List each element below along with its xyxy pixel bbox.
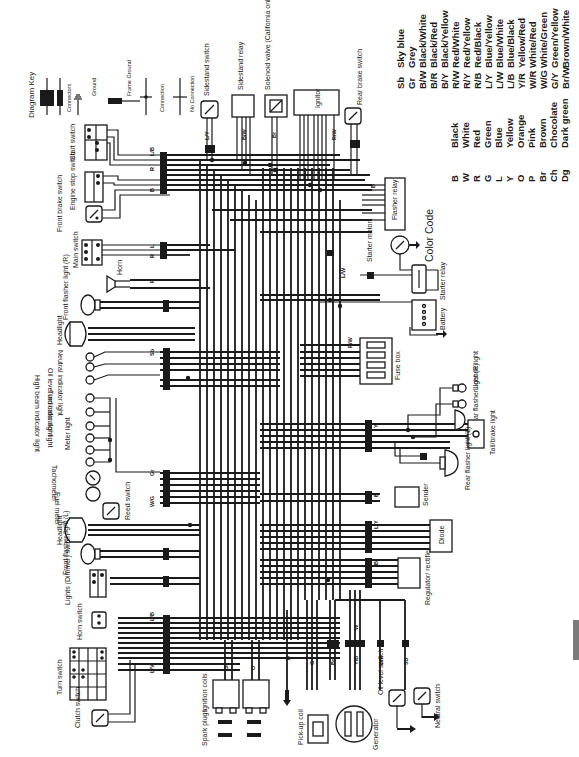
start-switch: Start switch	[69, 124, 160, 165]
generator-label: Generator	[372, 718, 379, 750]
color-name: Red/White	[450, 22, 461, 68]
svg-text:Diagram Key: Diagram Key	[27, 72, 36, 118]
diagram-key-title: Diagram Key	[27, 72, 36, 118]
color-name: Green/Yellow	[549, 8, 560, 68]
key-connection-label: Connection	[159, 84, 165, 112]
svg-text:Neutral indicator light: Neutral indicator light	[56, 350, 64, 416]
pickup-coil-label: Pick-up coil	[297, 709, 305, 745]
color-name: Chocolate	[548, 102, 559, 148]
color-name: Blue/Yellow	[483, 15, 494, 68]
wire-label: L/B	[149, 147, 155, 156]
horn-switch-label: Horn switch	[76, 603, 83, 640]
wire-label: O	[250, 665, 256, 670]
headlight-bottom: Headlight	[56, 515, 86, 545]
wire-label: W	[353, 624, 359, 630]
neutral-switch: Neutral switch	[414, 684, 441, 728]
svg-text:Front flasher light (R): Front flasher light (R)	[62, 254, 70, 320]
wire-label: Gr	[149, 469, 155, 476]
color-name: Black/White	[417, 14, 428, 68]
color-code: G/Y	[549, 72, 560, 89]
wire-label: Br	[330, 658, 336, 665]
color-code: Gr	[406, 78, 417, 89]
svg-text:Headlight: Headlight	[56, 315, 64, 345]
svg-text:Rear flasher light (R): Rear flasher light (R)	[472, 363, 480, 428]
svg-text:Tail/brake light: Tail/brake light	[489, 410, 497, 455]
wire-label: B/W	[241, 129, 247, 141]
color-name: Green	[482, 120, 493, 148]
svg-text:Ignition coils: Ignition coils	[201, 673, 209, 712]
color-name: Blue/Black	[505, 19, 516, 68]
color-name: Black	[449, 122, 460, 148]
neutral-switch-label: Neutral switch	[434, 684, 441, 728]
svg-text:Pick-up coil: Pick-up coil	[297, 709, 305, 745]
color-code: P	[526, 175, 537, 182]
color-name: Yellow/Red	[516, 18, 527, 68]
color-code: B/W	[417, 71, 428, 90]
rear-brake-switch-label: Rear brake switch	[356, 49, 363, 105]
color-name: White/Green	[538, 12, 549, 68]
solenoid-valve: Solenoid valve (California only)	[264, 0, 287, 180]
pickup-coil: Pick-up coil	[297, 709, 328, 745]
color-name: Dark green	[559, 98, 570, 148]
wire-label: L/W	[340, 267, 346, 278]
svg-text:Regulator/ rectifier: Regulator/ rectifier	[424, 547, 432, 605]
wire-label: Br	[271, 131, 277, 138]
front-flasher-r-label: Front flasher light (R)	[62, 254, 70, 320]
svg-text:Starter motor: Starter motor	[366, 220, 373, 262]
color-code: L	[493, 176, 504, 182]
svg-text:Sender: Sender	[422, 483, 429, 506]
wire-label: Sb	[403, 657, 409, 665]
svg-text:Starter relay: Starter relay	[439, 261, 447, 300]
color-code: Sb	[395, 77, 406, 89]
wire-label: P	[149, 279, 155, 283]
svg-text:Connection: Connection	[159, 84, 165, 112]
svg-text:Generator: Generator	[372, 718, 379, 750]
color-name: White/Red	[527, 21, 538, 68]
svg-text:Spark plugs: Spark plugs	[201, 709, 209, 746]
svg-text:Reed switch: Reed switch	[124, 482, 131, 520]
svg-text:Ground: Ground	[91, 78, 97, 96]
wire-label: L/V	[149, 664, 155, 673]
color-code: Br/W	[560, 67, 571, 89]
indicator-lights: Oil level indicator light Neutral indica…	[33, 350, 160, 472]
color-code-legend: Color Code B Black W White R Red G Green…	[395, 8, 571, 262]
spark-plugs: Spark plugs	[201, 709, 261, 746]
diode-label: Diode	[438, 526, 445, 544]
color-name: Red/Black	[472, 21, 483, 68]
color-code: L/Y	[483, 74, 494, 89]
front-brake-switch-label: Front brake switch	[56, 175, 63, 232]
wire-label: W/G	[149, 496, 155, 507]
svg-text:Frame Ground: Frame Ground	[126, 60, 132, 96]
page-edge-tab	[573, 620, 579, 660]
svg-text:Horn switch: Horn switch	[76, 603, 83, 640]
color-name: Grey	[406, 46, 417, 68]
wire-label: Y	[373, 424, 379, 428]
tail-brake-light-label: Tail/brake light	[489, 410, 497, 455]
svg-text:Connectors: Connectors	[66, 84, 72, 112]
wire-label: G	[309, 661, 315, 665]
color-code: W/R	[527, 70, 538, 89]
color-code: W	[460, 173, 471, 182]
color-code: O	[515, 175, 526, 182]
svg-text:Rear flasher light (L): Rear flasher light (L)	[464, 427, 472, 490]
color-code: L/B	[505, 74, 516, 89]
wire-label: Y/B	[353, 656, 359, 665]
main-switch-label: Main switch	[72, 231, 79, 268]
color-name: Pink	[526, 127, 537, 148]
horn: Horn	[107, 260, 130, 292]
key-no-connection-label: No Connection	[189, 76, 195, 112]
svg-text:Front brake switch: Front brake switch	[56, 175, 63, 232]
wire-label: R	[149, 254, 155, 258]
svg-text:Color Code: Color Code	[423, 209, 435, 262]
color-code: G	[482, 175, 493, 182]
rear-flasher-l-label: Rear flasher light (L)	[464, 427, 472, 490]
horn-label: Horn	[116, 260, 123, 275]
wire-label: B	[373, 493, 379, 497]
color-name: Brown	[537, 118, 548, 148]
svg-text:Neutral switch: Neutral switch	[434, 684, 441, 728]
sender-label: Sender	[422, 483, 429, 506]
diode: Diode	[430, 520, 452, 552]
color-name: Yellow	[504, 118, 515, 148]
color-code: R/Y	[461, 73, 472, 90]
headlight-top: Headlight	[56, 315, 86, 346]
